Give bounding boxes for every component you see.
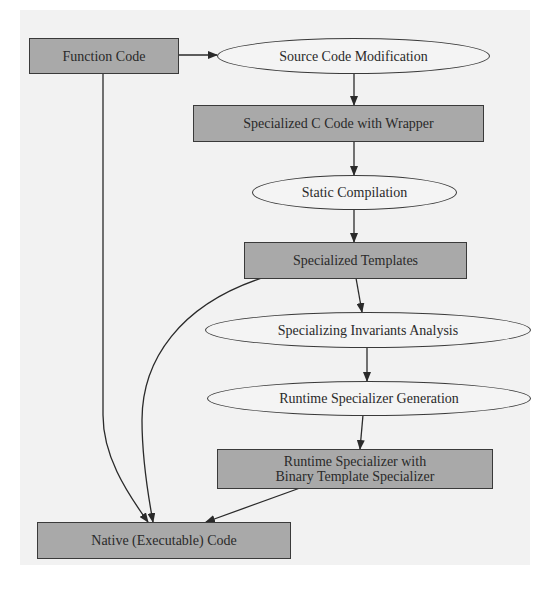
node-label-line2: Binary Template Specializer [276,469,435,484]
node-specializing-invariants-analysis: Specializing Invariants Analysis [205,312,531,348]
node-label: Source Code Modification [279,49,428,64]
edge-rtbinary-to-native [206,488,300,522]
node-specialized-templates: Specialized Templates [244,242,467,279]
edge-templates-to-invariants [356,278,362,312]
node-label: Native (Executable) Code [91,533,236,548]
edge-rtgen-to-rtbinary [360,415,363,449]
node-label-line1: Runtime Specializer with [284,454,426,469]
diagram-edges [0,0,557,595]
node-function-code: Function Code [29,38,179,74]
node-static-compilation: Static Compilation [252,175,457,210]
node-specialized-c-code: Specialized C Code with Wrapper [193,105,484,142]
node-label: Specialized Templates [293,253,418,268]
node-source-code-modification: Source Code Modification [217,38,490,74]
node-label: Static Compilation [302,185,407,200]
node-label: Function Code [63,49,146,64]
edge-function-to-native [103,73,148,522]
node-runtime-specializer-generation: Runtime Specializer Generation [207,381,531,416]
node-native-code: Native (Executable) Code [37,522,291,559]
node-runtime-specializer-binary: Runtime Specializer with Binary Template… [217,449,493,489]
node-label: Specializing Invariants Analysis [278,323,458,338]
node-label: Specialized C Code with Wrapper [243,116,433,131]
node-label: Runtime Specializer Generation [279,391,459,406]
